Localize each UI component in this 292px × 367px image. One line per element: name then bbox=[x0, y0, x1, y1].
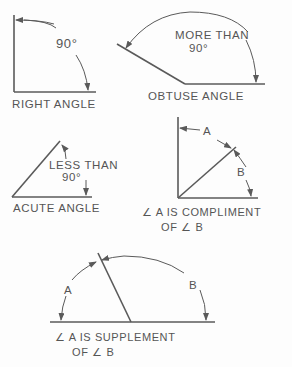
complement-label-b: B bbox=[237, 167, 245, 179]
angle-types-diagram: 90° RIGHT ANGLE MORE THAN 90° OBTUSE ANG… bbox=[0, 0, 292, 367]
supplement-label-a: A bbox=[64, 285, 72, 297]
right-angle-measure: 90° bbox=[56, 37, 77, 50]
supplement-caption-line2: OF ∠ B bbox=[72, 347, 114, 358]
obtuse-measure-line2: 90° bbox=[189, 43, 208, 55]
diagram-drawing bbox=[0, 0, 292, 367]
right-angle-figure bbox=[14, 15, 96, 92]
obtuse-measure-line1: MORE THAN bbox=[175, 30, 249, 42]
complement-caption-line1: ∠ A IS COMPLIMENT bbox=[142, 207, 261, 218]
acute-angle-caption: ACUTE ANGLE bbox=[13, 203, 100, 215]
complement-figure bbox=[178, 117, 258, 198]
acute-measure-line1: LESS THAN bbox=[49, 160, 118, 172]
right-angle-caption: RIGHT ANGLE bbox=[12, 99, 96, 111]
obtuse-angle-caption: OBTUSE ANGLE bbox=[148, 91, 244, 103]
complement-label-a: A bbox=[203, 126, 211, 138]
complement-caption-line2: OF ∠ B bbox=[161, 222, 203, 233]
acute-measure-line2: 90° bbox=[62, 172, 81, 184]
supplement-label-b: B bbox=[189, 280, 197, 292]
supplement-caption-line1: ∠ A IS SUPPLEMENT bbox=[55, 332, 175, 343]
